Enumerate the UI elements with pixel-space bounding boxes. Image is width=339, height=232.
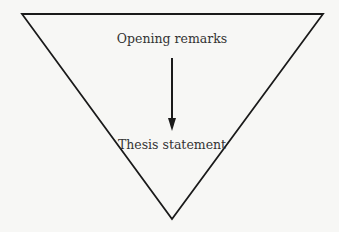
arrow-head-icon <box>168 118 176 131</box>
thesis-statement-label: Thesis statement <box>118 137 226 152</box>
opening-remarks-label: Opening remarks <box>117 31 227 46</box>
